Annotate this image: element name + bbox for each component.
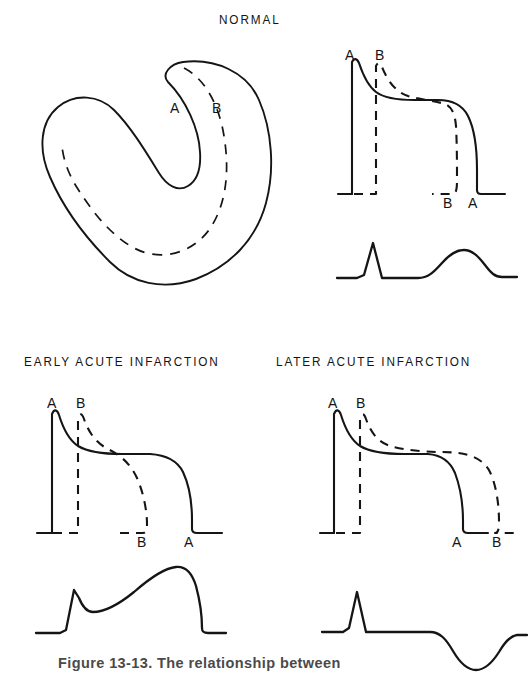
normal-ap-bottom-label-a: A	[468, 196, 477, 210]
later-ap-b-curve	[320, 414, 516, 533]
later-ap-bottom-label-a: A	[452, 535, 461, 549]
panel-title-early-acute-infarction: EARLY ACUTE INFARCTION	[24, 355, 220, 369]
panel-title-normal: NORMAL	[219, 13, 281, 27]
early-ap-group	[37, 410, 222, 533]
normal-ap-top-label-b: B	[375, 48, 384, 62]
early-ap-bottom-label-b: B	[137, 535, 146, 549]
early-ap-bottom-label-a: A	[184, 535, 193, 549]
early-ecg-group	[36, 567, 226, 633]
early-ecg-trace	[36, 567, 226, 633]
early-ap-b-curve	[37, 414, 147, 533]
later-ap-top-label-a: A	[328, 396, 337, 410]
normal-ecg-trace	[337, 243, 517, 278]
early-ap-top-label-a: A	[47, 396, 56, 410]
later-ap-top-label-b: B	[356, 396, 365, 410]
anatomy-midline-divider	[62, 68, 227, 255]
figure-canvas	[0, 0, 528, 673]
later-ap-a-curve	[334, 410, 488, 533]
normal-ap-b-curve	[338, 63, 457, 194]
later-ap-bottom-label-b: B	[492, 535, 501, 549]
normal-action-potential-group	[338, 59, 505, 194]
later-ap-group	[320, 410, 516, 533]
anatomy-outer-outline	[42, 61, 271, 284]
figure-root: NORMAL EARLY ACUTE INFARCTION LATER ACUT…	[0, 0, 528, 673]
early-ap-top-label-b: B	[76, 396, 85, 410]
normal-ecg-group	[337, 243, 517, 278]
normal-ap-top-label-a: A	[345, 48, 354, 62]
normal-ap-bottom-label-b: B	[443, 196, 452, 210]
anatomy-region-label-a: A	[170, 101, 179, 115]
anatomy-myocardial-wall	[42, 61, 271, 284]
anatomy-region-label-b: B	[212, 101, 221, 115]
figure-caption: Figure 13-13. The relationship between	[58, 655, 478, 671]
panel-title-later-acute-infarction: LATER ACUTE INFARCTION	[276, 355, 471, 369]
